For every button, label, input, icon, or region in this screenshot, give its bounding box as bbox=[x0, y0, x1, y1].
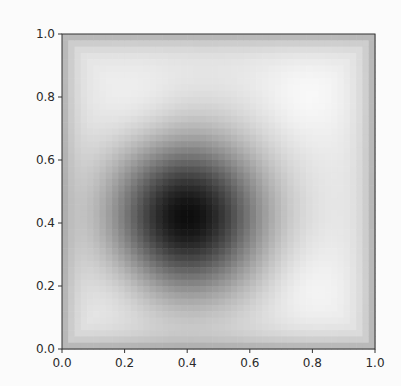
y-tick-label: 0.4 bbox=[36, 216, 55, 230]
y-tick-label: 0.0 bbox=[36, 342, 55, 356]
y-tick-label: 0.8 bbox=[36, 90, 55, 104]
heatmap-cells bbox=[62, 34, 376, 350]
x-tick-label: 0.0 bbox=[52, 356, 71, 370]
x-tick-label: 0.2 bbox=[115, 356, 134, 370]
x-tick-label: 1.0 bbox=[365, 356, 384, 370]
x-axis-ticks: 0.00.20.40.60.81.0 bbox=[52, 349, 384, 370]
x-tick-label: 0.4 bbox=[178, 356, 197, 370]
y-axis-ticks: 0.00.20.40.60.81.0 bbox=[36, 27, 62, 356]
y-tick-label: 1.0 bbox=[36, 27, 55, 41]
y-tick-label: 0.2 bbox=[36, 279, 55, 293]
x-tick-label: 0.8 bbox=[303, 356, 322, 370]
x-tick-label: 0.6 bbox=[240, 356, 259, 370]
heatmap-chart: 0.00.20.40.60.81.0 0.00.20.40.60.81.0 bbox=[0, 0, 401, 386]
y-tick-label: 0.6 bbox=[36, 153, 55, 167]
